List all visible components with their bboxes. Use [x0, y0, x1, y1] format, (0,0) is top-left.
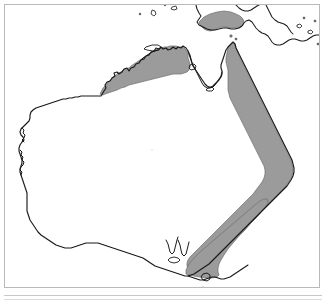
spencer-gulf-coastline — [166, 237, 178, 254]
scan-speck — [151, 149, 152, 150]
australia-distribution-map — [0, 0, 326, 304]
new-guinea-coastline-upper — [236, 5, 259, 11]
torres-strait-islet — [235, 38, 237, 40]
new-guinea-coastline-east — [266, 5, 293, 34]
timor-sea-islet — [139, 13, 141, 15]
coral-sea-islet — [317, 43, 319, 45]
figure-page — [0, 0, 326, 304]
timor-sea-islet — [164, 4, 166, 6]
timor-sea-islet — [171, 6, 177, 10]
torres-strait-islet — [230, 35, 232, 37]
bass-strait-islet — [202, 287, 204, 289]
coral-sea-islet — [303, 17, 305, 19]
kangaroo-island — [168, 257, 180, 263]
st-vincent-gulf-coastline — [178, 240, 189, 256]
timor-sea-islet — [151, 10, 156, 16]
coral-sea-islet — [308, 30, 313, 34]
northern-shaded-range — [100, 46, 190, 95]
eastern-shaded-range — [187, 42, 293, 270]
coral-sea-islet — [314, 20, 316, 22]
coral-sea-islet — [297, 24, 302, 28]
eastern-shaded-range-victoria-lobe — [186, 199, 268, 278]
bass-strait-islet — [229, 288, 231, 290]
bathurst-melville-islands — [144, 45, 161, 51]
